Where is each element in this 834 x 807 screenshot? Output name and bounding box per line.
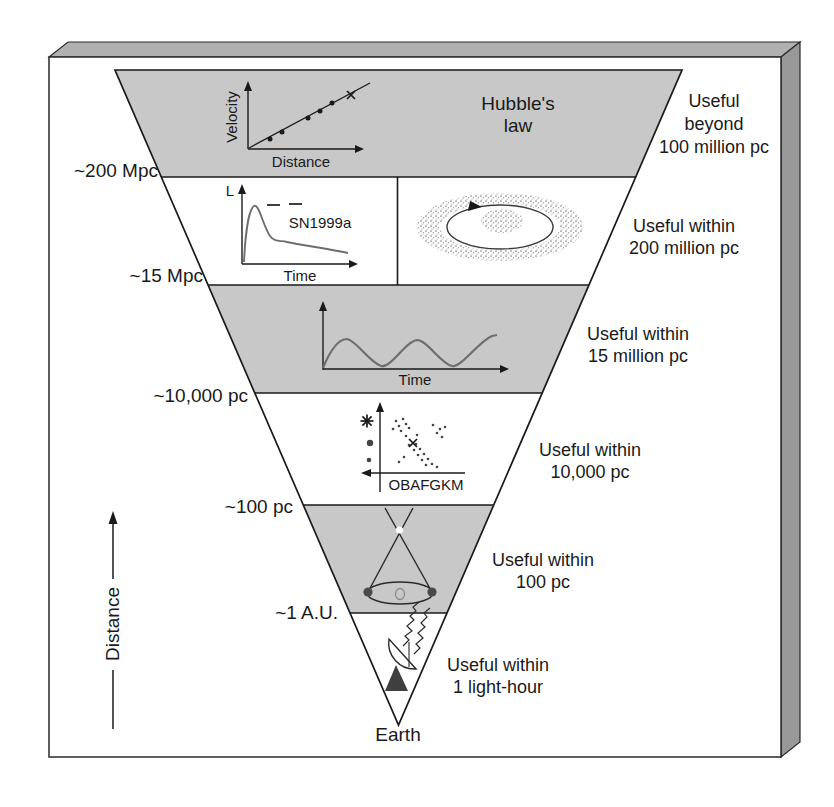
hubble-ylabel: Velocity (223, 91, 240, 143)
earth-position-dot (363, 587, 372, 596)
slab-top-face (49, 42, 800, 57)
useful-range-label-cepheid: Useful within 15 million pc (587, 323, 689, 367)
boundary-label-1au: ~1 A.U. (275, 602, 338, 624)
slab-right-face (781, 42, 800, 757)
label-line: Useful (659, 90, 769, 113)
bright-star-asterisk (361, 415, 374, 428)
title-line: law (481, 115, 554, 137)
useful-range-label-radar: Useful within 1 light-hour (447, 654, 549, 698)
hr-xlabel: OBAFGKM (388, 476, 463, 493)
label-line: 1 light-hour (447, 676, 549, 698)
hubble-law-title: Hubble's law (481, 93, 554, 137)
useful-range-label-hr: Useful within 10,000 pc (539, 439, 641, 483)
label-line: 15 million pc (587, 345, 689, 367)
useful-range-label-supernova: Useful within 200 million pc (629, 215, 739, 259)
label-line: Useful within (447, 654, 549, 676)
earth-position-dot (427, 587, 436, 596)
boundary-label-10000pc: ~10,000 pc (153, 385, 248, 407)
label-line: beyond (659, 113, 769, 136)
cepheid-xlabel: Time (399, 371, 432, 388)
useful-range-label-parallax: Useful within 100 pc (492, 549, 594, 593)
distance-ladder-figure: Hubble's law Useful beyond 100 million p… (0, 0, 834, 807)
earth-label: Earth (375, 724, 420, 746)
boundary-label-200mpc: ~200 Mpc (74, 160, 158, 182)
boundary-label-15mpc: ~15 Mpc (130, 265, 203, 287)
label-line: 10,000 pc (539, 461, 641, 483)
parallax-star (396, 526, 403, 533)
useful-range-label-hubble: Useful beyond 100 million pc (659, 90, 769, 159)
label-line: Useful within (629, 215, 739, 237)
supernova-xlabel: Time (284, 267, 317, 284)
boundary-label-100pc: ~100 pc (225, 496, 293, 518)
supernova-annotation: SN1999a (289, 214, 352, 231)
supernova-ylabel: L (226, 182, 234, 199)
label-line: Useful within (587, 323, 689, 345)
label-line: Useful within (492, 549, 594, 571)
title-line: Hubble's (481, 93, 554, 115)
label-line: 100 million pc (659, 136, 769, 159)
distance-axis-label: Distance (102, 587, 124, 661)
label-line: 100 pc (492, 571, 594, 593)
label-line: 200 million pc (629, 237, 739, 259)
label-line: Useful within (539, 439, 641, 461)
hubble-xlabel: Distance (272, 153, 330, 170)
